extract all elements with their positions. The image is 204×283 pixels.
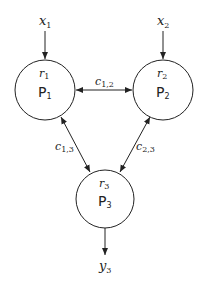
edge-c13: c1,3 (55, 117, 90, 172)
node-p3: r3 P3 (76, 170, 134, 228)
input-x1: x1 (39, 13, 51, 59)
node-p2-label: P2 (156, 84, 170, 101)
node-p3-rate: r3 (99, 177, 109, 191)
edge-c13-label: c1,3 (55, 140, 74, 154)
input-x2: x2 (157, 13, 169, 59)
node-p3-label: P3 (98, 193, 112, 210)
edge-c23: c2,3 (120, 117, 155, 172)
edge-c12: c1,2 (76, 75, 132, 90)
process-network-diagram: x1 x2 r1 P1 r2 P2 r3 P3 c1,2 c1,3 c2,3 (0, 0, 204, 283)
output-y3-label: y3 (98, 258, 111, 275)
output-y3: y3 (98, 228, 111, 275)
edge-c12-label: c1,2 (95, 75, 114, 89)
node-p1-rate: r1 (39, 67, 49, 81)
input-x1-label: x1 (39, 13, 51, 30)
node-p1: r1 P1 (15, 60, 75, 120)
node-p1-label: P1 (38, 84, 52, 101)
edge-c23-label: c2,3 (136, 140, 155, 154)
input-x2-label: x2 (157, 13, 169, 30)
node-p2-rate: r2 (157, 67, 167, 81)
node-p2: r2 P2 (133, 60, 193, 120)
